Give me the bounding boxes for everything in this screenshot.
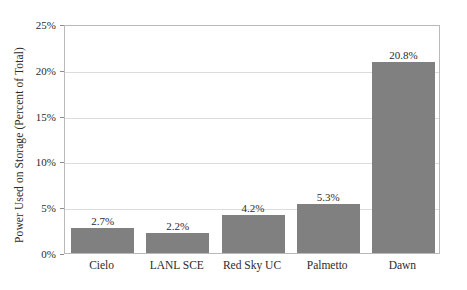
bar-value-label: 5.3%	[288, 191, 368, 203]
y-tick-label: 20%	[0, 65, 56, 77]
bar-value-label: 4.2%	[213, 202, 293, 214]
y-tick-label: 10%	[0, 156, 56, 168]
bar-value-label: 2.7%	[63, 215, 143, 227]
y-tick-label: 25%	[0, 19, 56, 31]
bar[interactable]	[71, 228, 134, 253]
bar[interactable]	[222, 215, 285, 253]
y-tick-label: 5%	[0, 202, 56, 214]
plot-area: 2.7%2.2%4.2%5.3%20.8%	[64, 25, 440, 254]
bar[interactable]	[146, 233, 209, 253]
bar-value-label: 2.2%	[138, 220, 218, 232]
x-tick-label: Dawn	[352, 259, 452, 271]
bar[interactable]	[297, 204, 360, 253]
bar-chart: Power Used on Storage (Percent of Total)…	[0, 0, 467, 290]
y-tick-label: 0%	[0, 248, 56, 260]
bar-value-label: 20.8%	[363, 49, 443, 61]
bar[interactable]	[372, 62, 435, 253]
y-tick-label: 15%	[0, 111, 56, 123]
y-tick-mark	[60, 254, 64, 255]
